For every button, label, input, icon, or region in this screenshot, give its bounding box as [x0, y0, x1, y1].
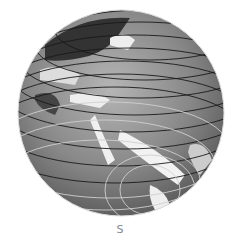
globe-image — [0, 0, 240, 240]
direction-label: S — [0, 223, 240, 236]
